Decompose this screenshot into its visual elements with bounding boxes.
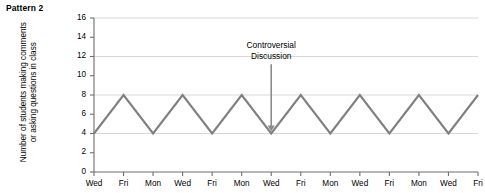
x-tick-label: Wed [440, 179, 457, 188]
x-tick-label: Fri [473, 179, 483, 188]
x-tick-label: Wed [352, 179, 369, 188]
annotation-label: Controversial Discussion [247, 40, 296, 61]
y-axis-ticks [90, 18, 94, 172]
y-tick-label: 4 [60, 128, 86, 137]
annotation-arrow-icon [268, 64, 275, 131]
x-tick-label: Fri [207, 179, 217, 188]
data-series-line [94, 95, 478, 134]
y-tick-label: 8 [60, 90, 86, 99]
annotation-line2: Discussion [247, 51, 296, 62]
x-tick-label: Mon [145, 179, 161, 188]
x-tick-label: Mon [411, 179, 427, 188]
y-tick-label: 14 [60, 32, 86, 41]
x-axis-ticks [94, 172, 478, 176]
y-tick-label: 6 [60, 109, 86, 118]
y-tick-label: 16 [60, 13, 86, 22]
x-tick-label: Wed [174, 179, 191, 188]
x-tick-label: Fri [119, 179, 129, 188]
chart-figure: Pattern 2 Number of students making comm… [0, 0, 485, 193]
y-tick-label: 10 [60, 70, 86, 79]
x-tick-label: Mon [234, 179, 250, 188]
x-tick-label: Fri [385, 179, 395, 188]
y-tick-label: 0 [60, 167, 86, 176]
gridlines-group [94, 18, 478, 134]
x-tick-label: Fri [296, 179, 306, 188]
y-tick-label: 12 [60, 51, 86, 60]
x-tick-label: Wed [86, 179, 103, 188]
y-tick-label: 2 [60, 147, 86, 156]
x-tick-label: Wed [263, 179, 280, 188]
annotation-line1: Controversial [247, 40, 296, 50]
x-tick-label: Mon [322, 179, 338, 188]
